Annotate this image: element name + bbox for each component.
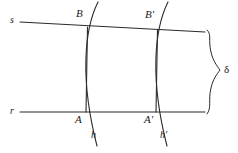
label-curve-h-prime: h' — [160, 130, 167, 140]
curve-h-prime — [156, 2, 168, 146]
label-curve-h: h — [91, 130, 96, 140]
label-point-a-prime: A' — [144, 114, 153, 125]
geometry-figure: s r B B' A A' h h' δ — [0, 0, 238, 153]
label-point-b: B — [76, 8, 83, 19]
label-line-r: r — [10, 106, 14, 116]
line-s — [20, 22, 205, 32]
label-delta-measure: δ — [224, 64, 229, 75]
curve-h — [86, 2, 98, 146]
segment-bprime-to-aprime — [156, 30, 158, 112]
label-point-a: A — [75, 114, 82, 125]
label-point-b-prime: B' — [145, 9, 154, 20]
segment-b-to-a — [86, 27, 88, 112]
label-line-s: s — [10, 15, 14, 25]
delta-brace — [207, 30, 220, 114]
figure-canvas — [0, 0, 238, 153]
